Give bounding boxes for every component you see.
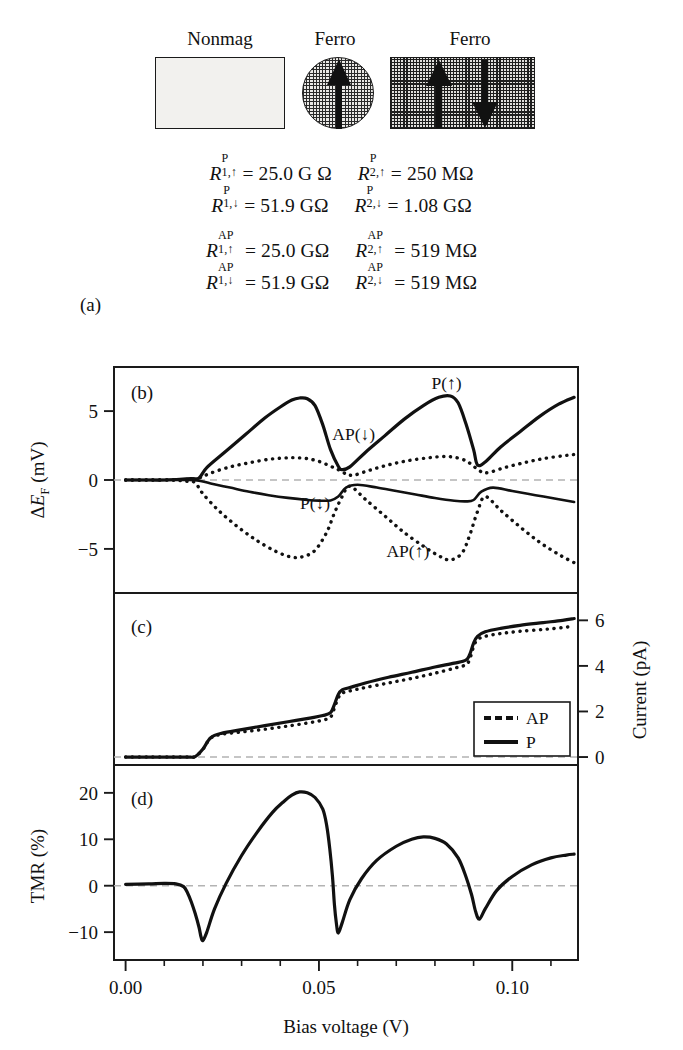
curve-b-AP(↑) xyxy=(126,480,575,563)
annotation-P(↓): P(↓) xyxy=(300,493,330,513)
panel-c-legend[interactable]: AP P xyxy=(474,702,570,756)
curve-annotations: P(↑)AP(↓)P(↓)AP(↑) xyxy=(300,373,462,561)
x-tick-label: 0.10 xyxy=(496,977,529,998)
legend-label-ap: AP xyxy=(526,708,549,728)
data-curves xyxy=(126,396,575,941)
zero-reference-lines xyxy=(114,480,578,886)
panel-d-frame xyxy=(114,765,578,960)
panel-c-ylabel: Current (pA) xyxy=(629,641,651,740)
y-tick-label-c: 6 xyxy=(595,610,605,631)
x-tick-label: 0.05 xyxy=(302,977,335,998)
svg-text:TMR (%): TMR (%) xyxy=(27,829,49,903)
multi-panel-plot: (b) (c) (d) 50−5642020100−100.000.050.10… xyxy=(0,0,683,1050)
svg-text:Current (pA): Current (pA) xyxy=(629,641,651,740)
y-tick-label-b: −5 xyxy=(78,539,98,560)
y-tick-label-b: 5 xyxy=(89,401,99,422)
y-tick-label-c: 0 xyxy=(595,747,605,768)
panel-label-c: (c) xyxy=(131,616,152,638)
annotation-AP(↑): AP(↑) xyxy=(386,541,429,561)
panel-label-d: (d) xyxy=(131,788,153,810)
annotation-AP(↓): AP(↓) xyxy=(332,424,375,444)
y-tick-label-d: −10 xyxy=(68,922,98,943)
y-tick-label-c: 2 xyxy=(595,701,605,722)
x-tick-label: 0.00 xyxy=(109,977,142,998)
x-axis-label: Bias voltage (V) xyxy=(283,1016,409,1038)
ylabel-E: E xyxy=(27,494,48,507)
y-tick-label-d: 20 xyxy=(79,783,98,804)
curve-d-TMR xyxy=(126,792,575,941)
svg-text:ΔEF (mV): ΔEF (mV) xyxy=(27,442,52,519)
legend-label-p: P xyxy=(526,732,536,752)
y-tick-label-b: 0 xyxy=(89,470,99,491)
panel-b-ylabel: ΔEF (mV) xyxy=(27,442,52,519)
y-tick-label-d: 10 xyxy=(79,829,98,850)
ylabel-unit: (mV) xyxy=(27,442,49,488)
y-tick-label-c: 4 xyxy=(595,656,605,677)
ylabel-delta: Δ xyxy=(27,506,48,518)
panel-label-b: (b) xyxy=(131,382,153,404)
y-tick-label-d: 0 xyxy=(89,876,99,897)
figure-root: Nonmag Ferro Ferro RP1,↑ = 25.0 G Ω RP2,… xyxy=(0,0,683,1050)
annotation-P(↑): P(↑) xyxy=(431,373,461,393)
legend-box xyxy=(474,702,570,756)
panel-d-ylabel: TMR (%) xyxy=(27,829,49,903)
ylabel-sub-F: F xyxy=(37,487,52,494)
